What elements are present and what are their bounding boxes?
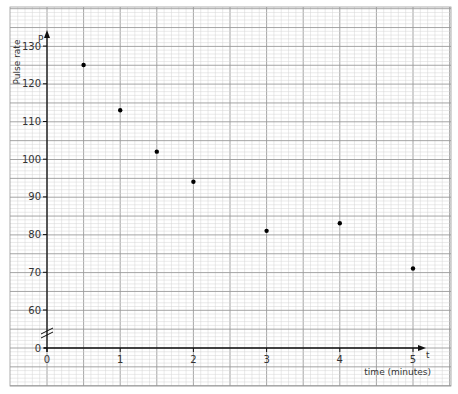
graph-paper-grid xyxy=(10,7,451,386)
y-tick-label: 120 xyxy=(22,78,41,89)
data-point xyxy=(118,108,122,112)
y-tick-label: 60 xyxy=(28,305,41,316)
y-tick-label: 90 xyxy=(28,191,41,202)
data-points xyxy=(81,63,415,271)
y-axis-label: Pulse rate xyxy=(12,39,22,84)
data-point xyxy=(191,180,195,184)
y-tick-label: 110 xyxy=(22,116,41,127)
x-tick-label: 5 xyxy=(410,354,416,365)
y-tick-label: 70 xyxy=(28,267,41,278)
data-point xyxy=(155,149,159,153)
data-point xyxy=(264,229,268,233)
x-tick-label: 4 xyxy=(337,354,343,365)
x-tick-label: 2 xyxy=(190,354,196,365)
x-tick-label: 0 xyxy=(44,354,50,365)
x-axis-symbol: t xyxy=(426,350,430,360)
x-axis-label: time (minutes) xyxy=(364,367,431,377)
data-point xyxy=(338,221,342,225)
axes xyxy=(41,30,426,352)
y-axis-symbol: P xyxy=(38,34,44,44)
ticks: 012345060708090100110120130 xyxy=(22,41,416,365)
scatter-chart: 012345060708090100110120130 P t Pulse ra… xyxy=(0,0,458,394)
y-tick-label: 80 xyxy=(28,229,41,240)
y-tick-label: 0 xyxy=(35,343,41,354)
data-point xyxy=(81,63,85,67)
y-tick-label: 100 xyxy=(22,154,41,165)
x-tick-label: 1 xyxy=(117,354,123,365)
data-point xyxy=(411,266,415,270)
x-tick-label: 3 xyxy=(263,354,269,365)
